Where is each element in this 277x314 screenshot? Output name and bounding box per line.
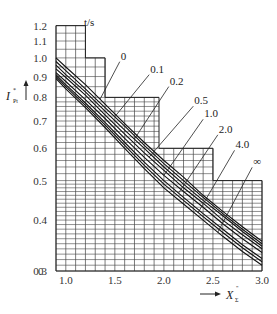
- x-tick-label: 3.0: [255, 274, 269, 286]
- y-tick-label: 0.6: [33, 142, 47, 154]
- curve-t-0: [56, 58, 262, 241]
- curve-label: 4.0: [236, 138, 250, 150]
- curve-label: 0: [121, 50, 127, 62]
- x-tick-label: 1.0: [59, 274, 73, 286]
- y-axis-symbol: I: [5, 89, 11, 103]
- svg-text:Pt: Pt: [13, 98, 18, 104]
- y-tick-label: 0.4: [33, 214, 47, 226]
- x-axis-symbol: X: [225, 288, 234, 302]
- y-axis-ticks: 1.21.11.00.90.80.70.60.50.40.3: [33, 20, 47, 277]
- y-tick-label: 1.0: [33, 52, 47, 64]
- x-axis-label: X " Σ: [200, 285, 239, 303]
- y-tick-label: 0.9: [33, 71, 47, 83]
- y-tick-label: 0.8: [33, 91, 47, 103]
- curve-label: 0.5: [194, 94, 208, 106]
- y-tick-label: 1.2: [33, 20, 47, 32]
- x-tick-label: 2.5: [206, 274, 220, 286]
- y-tick-label: 0.5: [33, 175, 47, 187]
- x-tick-label: 1.5: [108, 274, 122, 286]
- curve-label: ∞: [253, 155, 261, 167]
- y-tick-label: 0.7: [33, 115, 47, 127]
- legend-title: t/s: [84, 16, 94, 28]
- y-axis-label: I * Pt: [5, 80, 29, 104]
- curve-label: 1.0: [204, 107, 218, 119]
- svg-text:*: *: [13, 87, 16, 93]
- curve-t-0.1: [56, 62, 262, 244]
- curve-label: 0.2: [170, 75, 184, 87]
- svg-text:": ": [236, 285, 239, 291]
- x-tick-label: 2.0: [157, 274, 171, 286]
- curve-label: 2.0: [219, 123, 233, 135]
- x-zero-label: 0: [38, 265, 44, 277]
- y-tick-label: 1.1: [33, 35, 47, 47]
- curve-label: 0.1: [150, 63, 164, 75]
- svg-text:Σ: Σ: [235, 297, 239, 303]
- short-circuit-current-chart: 00.10.20.51.02.04.0∞ 1.21.11.00.90.80.70…: [0, 0, 277, 314]
